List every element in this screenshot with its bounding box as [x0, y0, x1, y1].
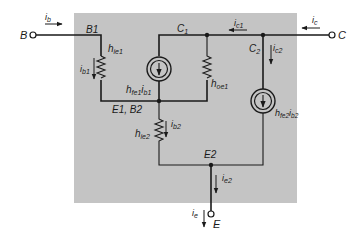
- label-node-e2: E2: [204, 149, 217, 160]
- label-terminal-e: E: [213, 218, 221, 230]
- label-node-e1b2: E1, B2: [112, 104, 142, 115]
- label-terminal-b: B: [20, 29, 27, 41]
- terminal-e: [208, 211, 214, 217]
- label-terminal-c: C: [338, 29, 346, 41]
- label-node-b1: B1: [86, 24, 98, 35]
- darlington-equivalent-circuit: B C E B1 C1 C2 E1, B2 E2 ib ib1 ic1 ic i…: [0, 0, 364, 239]
- label-ib: ib: [45, 12, 51, 23]
- label-ie: ie: [192, 208, 198, 219]
- terminal-b: [30, 32, 36, 38]
- node-c1: [205, 33, 209, 37]
- terminal-c: [329, 32, 335, 38]
- label-ic: ic: [312, 15, 318, 26]
